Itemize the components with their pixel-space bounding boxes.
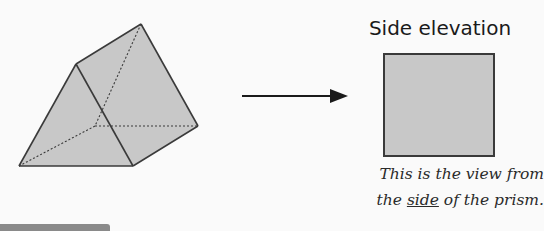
arrow-right-icon <box>238 86 350 106</box>
side-elevation-title: Side elevation <box>360 16 520 40</box>
caption-line-2: the side of the prism. <box>330 187 544 213</box>
caption: This is the view from the side of the pr… <box>330 161 544 213</box>
caption-emphasis: side <box>407 191 439 209</box>
side-elevation-square <box>383 53 495 157</box>
section-tab-bar <box>0 224 110 231</box>
caption-line-1: This is the view from <box>330 161 544 187</box>
triangular-prism-drawing <box>0 0 230 200</box>
caption-text: the <box>377 191 407 209</box>
caption-text: of the prism. <box>439 191 544 209</box>
